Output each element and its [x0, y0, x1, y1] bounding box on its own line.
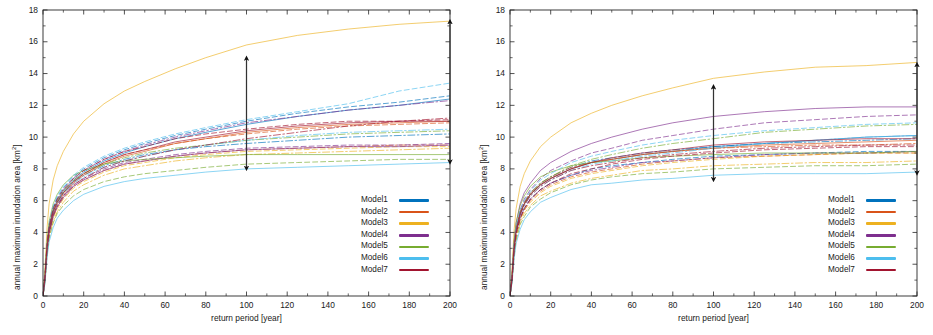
- legend-color-swatch: [866, 222, 896, 225]
- y-tick-label: 12: [484, 100, 505, 110]
- legend-item[interactable]: Model1: [828, 195, 902, 207]
- x-tick-label: 200: [905, 300, 929, 310]
- legend-left: Model1Model2Model3Model4Model5Model6Mode…: [361, 195, 435, 276]
- y-tick-label: 0: [17, 291, 38, 301]
- x-tick-label: 180: [864, 300, 888, 310]
- y-tick-label: 2: [17, 259, 38, 269]
- legend-label: Model5: [361, 241, 388, 250]
- y-tick-label: 6: [17, 195, 38, 205]
- y-tick-label: 16: [484, 36, 505, 46]
- legend-label: Model6: [361, 253, 388, 262]
- x-axis-label-right: return period [year]: [510, 313, 917, 323]
- legend-right: Model1Model2Model3Model4Model5Model6Mode…: [828, 195, 902, 276]
- y-tick-label: 0: [484, 291, 505, 301]
- x-tick-label: 80: [661, 300, 685, 310]
- legend-item[interactable]: Model6: [361, 253, 435, 265]
- legend-item[interactable]: Model3: [828, 218, 902, 230]
- legend-label: Model7: [361, 265, 388, 274]
- x-tick-label: 20: [539, 300, 563, 310]
- legend-label: Model7: [828, 265, 855, 274]
- legend-label: Model3: [828, 218, 855, 227]
- legend-item[interactable]: Model5: [828, 241, 902, 253]
- plot-canvas-left: [0, 0, 466, 335]
- legend-label: Model3: [361, 218, 388, 227]
- chart-panel-right: annual maximum inundation area [km2] ret…: [467, 0, 933, 335]
- y-tick-label: 14: [484, 68, 505, 78]
- y-tick-label: 10: [17, 132, 38, 142]
- legend-label: Model4: [828, 230, 855, 239]
- x-tick-label: 0: [31, 300, 55, 310]
- y-tick-label: 16: [17, 36, 38, 46]
- x-tick-label: 180: [397, 300, 421, 310]
- legend-color-swatch: [866, 211, 896, 214]
- legend-item[interactable]: Model2: [828, 207, 902, 219]
- y-tick-label: 8: [17, 163, 38, 173]
- legend-item[interactable]: Model3: [361, 218, 435, 230]
- x-tick-label: 0: [498, 300, 522, 310]
- legend-color-swatch: [866, 257, 896, 260]
- y-tick-label: 2: [484, 259, 505, 269]
- y-tick-label: 8: [484, 163, 505, 173]
- x-tick-label: 20: [72, 300, 96, 310]
- legend-color-swatch: [399, 269, 429, 272]
- legend-label: Model4: [361, 230, 388, 239]
- legend-color-swatch: [399, 211, 429, 214]
- x-tick-label: 80: [194, 300, 218, 310]
- legend-color-swatch: [866, 269, 896, 272]
- x-tick-label: 120: [742, 300, 766, 310]
- y-tick-label: 18: [484, 5, 505, 15]
- legend-color-swatch: [866, 199, 896, 202]
- legend-item[interactable]: Model4: [361, 230, 435, 242]
- legend-label: Model5: [828, 241, 855, 250]
- y-tick-label: 14: [17, 68, 38, 78]
- x-tick-label: 200: [438, 300, 462, 310]
- legend-item[interactable]: Model6: [828, 253, 902, 265]
- x-tick-label: 120: [275, 300, 299, 310]
- y-tick-label: 4: [484, 227, 505, 237]
- legend-label: Model1: [361, 195, 388, 204]
- legend-item[interactable]: Model7: [361, 265, 435, 277]
- x-tick-label: 40: [579, 300, 603, 310]
- legend-color-swatch: [399, 257, 429, 260]
- x-tick-label: 40: [112, 300, 136, 310]
- legend-label: Model6: [828, 253, 855, 262]
- y-tick-label: 6: [484, 195, 505, 205]
- x-tick-label: 140: [316, 300, 340, 310]
- chart-panel-left: annual maximum inundation area [km2] ret…: [0, 0, 466, 335]
- legend-color-swatch: [399, 199, 429, 202]
- y-tick-label: 12: [17, 100, 38, 110]
- x-tick-label: 60: [153, 300, 177, 310]
- legend-color-swatch: [399, 234, 429, 237]
- legend-color-swatch: [866, 246, 896, 249]
- x-tick-label: 100: [702, 300, 726, 310]
- x-tick-label: 160: [824, 300, 848, 310]
- y-tick-label: 10: [484, 132, 505, 142]
- legend-label: Model2: [828, 207, 855, 216]
- figure-two-panel-return-period: annual maximum inundation area [km2] ret…: [0, 0, 933, 335]
- x-tick-label: 60: [620, 300, 644, 310]
- legend-item[interactable]: Model1: [361, 195, 435, 207]
- x-axis-label-left: return period [year]: [43, 313, 450, 323]
- legend-item[interactable]: Model7: [828, 265, 902, 277]
- x-tick-label: 140: [783, 300, 807, 310]
- y-tick-label: 4: [17, 227, 38, 237]
- legend-color-swatch: [866, 234, 896, 237]
- legend-item[interactable]: Model2: [361, 207, 435, 219]
- x-tick-label: 100: [235, 300, 259, 310]
- plot-canvas-right: [467, 0, 933, 335]
- legend-label: Model2: [361, 207, 388, 216]
- legend-item[interactable]: Model5: [361, 241, 435, 253]
- legend-label: Model1: [828, 195, 855, 204]
- legend-item[interactable]: Model4: [828, 230, 902, 242]
- legend-color-swatch: [399, 246, 429, 249]
- legend-color-swatch: [399, 222, 429, 225]
- x-tick-label: 160: [357, 300, 381, 310]
- y-tick-label: 18: [17, 5, 38, 15]
